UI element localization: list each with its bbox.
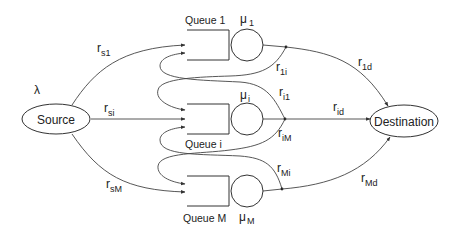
edge-queue-1-to-queue-i <box>158 47 286 110</box>
edge-source-queue-m <box>72 134 185 192</box>
queue-1-label: Queue 1 <box>185 14 225 26</box>
server-m-output <box>263 189 282 191</box>
edge-label-rim: riM <box>278 126 292 143</box>
queue-m: Queue M μM <box>183 175 263 226</box>
edge-label-rmd: rMd <box>361 171 378 188</box>
server-1-output <box>263 45 286 47</box>
destination-label: Destination <box>374 115 434 129</box>
source-node: Source <box>22 104 90 134</box>
service-rate-1: μ1 <box>240 12 254 28</box>
edge-label-ri1: ri1 <box>279 85 290 102</box>
service-rate-i: μi <box>240 88 250 104</box>
edge-label-rmi: rMi <box>277 161 291 178</box>
source-label: Source <box>37 113 75 127</box>
edge-queue-1-destination <box>286 47 388 106</box>
queue-i-label: Queue i <box>185 138 222 150</box>
arrival-rate-label: λ <box>34 83 40 97</box>
edge-label-rs1: rs1 <box>97 41 111 58</box>
service-rate-m: μM <box>239 210 254 226</box>
edge-label-rsi: rsi <box>104 101 115 118</box>
queueing-network-diagram: Source λ Destination Queue 1 μ1 Queue i … <box>0 0 459 236</box>
edge-label-r1i: r1i <box>276 60 287 77</box>
edge-label-rid: rid <box>333 100 344 117</box>
queue-m-label: Queue M <box>183 212 226 224</box>
queue-1: Queue 1 μ1 <box>185 12 263 61</box>
queue-i: Queue i μi <box>185 88 263 150</box>
destination-node: Destination <box>370 105 438 137</box>
edge-queue-m-to-queue-i <box>160 127 282 189</box>
edge-label-r1d: r1d <box>358 55 372 72</box>
edge-queue-i-to-queue-m <box>158 119 285 184</box>
